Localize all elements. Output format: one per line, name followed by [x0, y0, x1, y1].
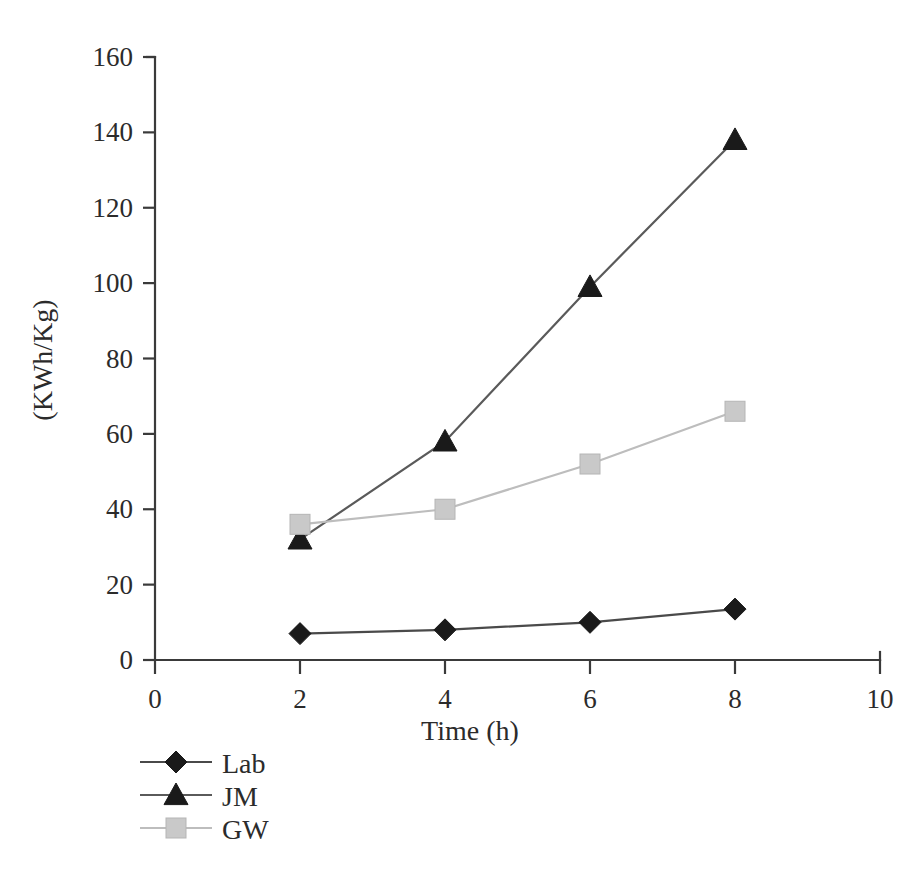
data-point-marker — [723, 128, 747, 150]
legend-swatch-marker — [164, 783, 188, 805]
legend-label: JM — [222, 781, 258, 812]
legend-swatch-marker — [165, 751, 187, 773]
y-tick-label: 160 — [93, 42, 134, 72]
series-gw — [290, 401, 745, 534]
data-point-marker — [289, 623, 311, 645]
chart-legend: LabJMGW — [140, 748, 269, 845]
x-tick-label: 0 — [148, 684, 162, 714]
x-axis-ticks: 0246810 — [148, 660, 893, 714]
series-line — [300, 140, 735, 539]
series-lab — [289, 598, 746, 644]
line-chart: 020406080100120140160 0246810 Time (h) (… — [0, 0, 924, 888]
y-tick-label: 140 — [93, 117, 134, 147]
y-tick-label: 40 — [106, 494, 133, 524]
data-point-marker — [435, 499, 455, 519]
chart-figure: 020406080100120140160 0246810 Time (h) (… — [0, 0, 924, 888]
axis-lines — [147, 57, 880, 660]
legend-label: Lab — [222, 748, 266, 779]
series-line — [300, 411, 735, 524]
y-tick-label: 60 — [106, 419, 133, 449]
x-tick-label: 4 — [438, 684, 452, 714]
legend-item-gw: GW — [140, 814, 269, 845]
y-tick-label: 100 — [93, 268, 134, 298]
x-tick-label: 2 — [293, 684, 307, 714]
x-tick-label: 6 — [583, 684, 597, 714]
series-line — [300, 609, 735, 633]
y-axis-ticks: 020406080100120140160 — [93, 42, 156, 675]
data-point-marker — [725, 401, 745, 421]
legend-swatch-marker — [166, 818, 186, 838]
y-axis-title: (KWh/Kg) — [27, 299, 58, 420]
y-tick-label: 20 — [106, 570, 133, 600]
y-tick-label: 0 — [120, 645, 134, 675]
data-point-marker — [724, 598, 746, 620]
data-point-marker — [579, 611, 601, 633]
data-point-marker — [580, 454, 600, 474]
legend-item-lab: Lab — [140, 748, 266, 779]
data-point-marker — [290, 514, 310, 534]
legend-label: GW — [222, 814, 269, 845]
y-tick-label: 80 — [106, 344, 133, 374]
series-layer — [288, 128, 747, 645]
y-tick-label: 120 — [93, 193, 134, 223]
x-tick-label: 8 — [728, 684, 742, 714]
legend-item-jm: JM — [140, 781, 258, 812]
data-point-marker — [434, 619, 456, 641]
x-axis-title: Time (h) — [421, 715, 519, 746]
x-tick-label: 10 — [867, 684, 894, 714]
